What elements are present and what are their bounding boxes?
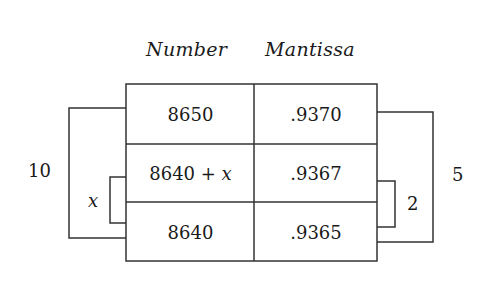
left-inner-bracket-label: x [88,190,98,211]
mantissa-cell: .9367 [255,145,377,202]
right-inner-bracket-label: 2 [407,193,418,214]
number-cell: 8640 [127,203,254,261]
header-mantissa: Mantissa [265,38,355,60]
number-cell: 8650 [127,85,254,144]
mantissa-cell: .9365 [255,203,377,261]
mantissa-cell: .9370 [255,85,377,144]
right-inner-bracket [377,181,395,227]
number-cell: 8640 + x [127,145,254,202]
header-number: Number [146,38,227,60]
left-outer-bracket-label: 10 [28,160,51,181]
right-outer-bracket-label: 5 [452,164,463,185]
left-outer-bracket [69,108,126,238]
right-outer-bracket [377,112,433,242]
number-cell-text: 8640 + x [149,163,232,184]
left-inner-bracket [110,177,126,223]
